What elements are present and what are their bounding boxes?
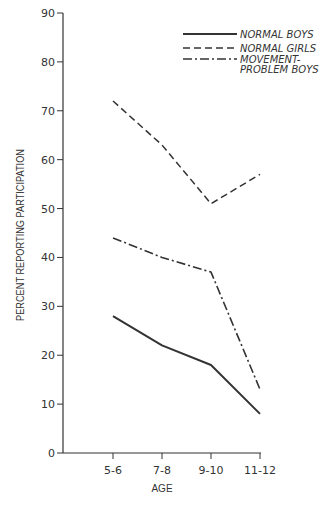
y-tick-label: 10 bbox=[41, 398, 55, 411]
y-tick-label: 40 bbox=[41, 251, 55, 264]
y-tick-label: 80 bbox=[41, 56, 55, 69]
legend-label: NORMAL BOYS bbox=[240, 29, 314, 40]
y-tick-label: 50 bbox=[41, 203, 55, 216]
y-axis-title: PERCENT REPORTING PARTICIPATION bbox=[15, 149, 26, 321]
y-tick-label: 70 bbox=[41, 105, 55, 118]
y-tick-label: 30 bbox=[41, 300, 55, 313]
x-tick-label: 9-10 bbox=[199, 464, 224, 477]
line-chart: 0102030405060708090 5-67-89-1011-12 NORM… bbox=[0, 0, 328, 511]
series-lines bbox=[113, 101, 260, 414]
series-movement-problem-boys bbox=[113, 238, 260, 390]
y-axis: 0102030405060708090 bbox=[41, 7, 63, 460]
legend-label-line2: PROBLEM BOYS bbox=[240, 64, 319, 75]
x-axis-title: AGE bbox=[151, 483, 172, 494]
legend-label: NORMAL GIRLS bbox=[240, 43, 317, 54]
y-tick-label: 60 bbox=[41, 154, 55, 167]
x-tick-label: 11-12 bbox=[244, 464, 276, 477]
series-normal-girls bbox=[113, 101, 260, 204]
y-tick-label: 20 bbox=[41, 349, 55, 362]
legend: NORMAL BOYSNORMAL GIRLSMOVEMENT-PROBLEM … bbox=[183, 29, 319, 75]
x-tick-label: 5-6 bbox=[104, 464, 122, 477]
y-tick-label: 90 bbox=[41, 7, 55, 20]
y-tick-label: 0 bbox=[48, 447, 55, 460]
series-normal-boys bbox=[113, 316, 260, 414]
x-tick-label: 7-8 bbox=[153, 464, 171, 477]
x-axis: 5-67-89-1011-12 bbox=[63, 453, 276, 477]
